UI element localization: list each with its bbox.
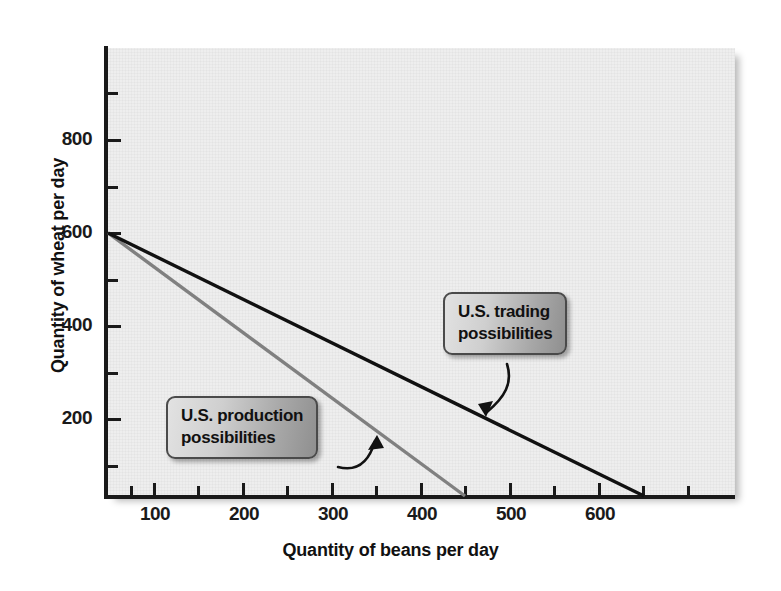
- x-tick-minor-550: [553, 486, 556, 496]
- x-tick-major-100: [153, 483, 156, 496]
- x-tick-minor-650: [642, 486, 645, 496]
- x-tick-label-500: 500: [476, 503, 546, 525]
- x-tick-label-200: 200: [209, 503, 279, 525]
- y-axis-title: Quantity of wheat per day: [48, 136, 69, 396]
- x-tick-major-500: [509, 483, 512, 496]
- annotation-label-trading-line1: U.S. trading: [458, 301, 552, 323]
- y-tick-minor-100: [108, 465, 118, 468]
- y-tick-major-400: [108, 325, 121, 328]
- annotation-label-trading: U.S. trading possibilities: [443, 292, 567, 355]
- y-tick-major-800: [108, 139, 121, 142]
- chart-figure: 800 600 400 200 100 200 300 400 500 600 …: [0, 0, 781, 591]
- annotation-label-production-line1: U.S. production: [181, 405, 303, 427]
- x-tick-major-300: [331, 483, 334, 496]
- x-tick-label-600: 600: [565, 503, 635, 525]
- y-tick-major-200: [108, 418, 121, 421]
- x-tick-minor-700: [687, 486, 690, 496]
- y-tick-label-200: 200: [26, 407, 92, 429]
- x-tick-label-400: 400: [387, 503, 457, 525]
- y-tick-major-600: [108, 232, 121, 235]
- y-tick-minor-900: [108, 92, 118, 95]
- x-tick-minor-50: [130, 486, 133, 496]
- x-tick-label-300: 300: [298, 503, 368, 525]
- y-tick-minor-300: [108, 372, 118, 375]
- x-tick-minor-250: [286, 486, 289, 496]
- y-tick-label-200-wrap: 200: [26, 407, 92, 429]
- x-tick-label-100: 100: [120, 503, 190, 525]
- x-tick-major-600: [598, 483, 601, 496]
- x-tick-minor-350: [375, 486, 378, 496]
- x-tick-minor-450: [464, 486, 467, 496]
- x-axis-title: Quantity of beans per day: [0, 540, 781, 561]
- annotation-label-production-line2: possibilities: [181, 427, 303, 449]
- y-tick-minor-700: [108, 186, 118, 189]
- annotation-label-trading-line2: possibilities: [458, 323, 552, 345]
- x-tick-major-400: [420, 483, 423, 496]
- annotation-label-production: U.S. production possibilities: [166, 396, 318, 459]
- y-tick-minor-500: [108, 279, 118, 282]
- x-tick-minor-150: [197, 486, 200, 496]
- y-axis-line: [104, 46, 108, 499]
- x-tick-major-200: [242, 483, 245, 496]
